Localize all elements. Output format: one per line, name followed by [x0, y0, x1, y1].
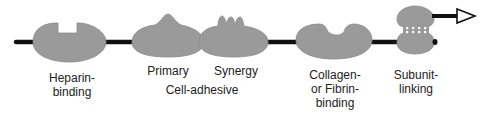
label-line: binding [300, 96, 370, 110]
collagen-fibrin-binding-domain [296, 24, 372, 59]
label-collagen-fibrin-binding: Collagen- or Fibrin- binding [300, 68, 370, 110]
disulfide-bond-dot [424, 27, 426, 29]
disulfide-bond-dot [412, 31, 414, 33]
label-line: Heparin- [39, 71, 105, 85]
label-line: Collagen- [300, 68, 370, 82]
primary-domain [132, 14, 204, 57]
disulfide-bond-dot [406, 27, 408, 29]
label-cell-adhesive: Cell-adhesive [150, 83, 254, 97]
subunit-linking-lower-half [397, 33, 434, 54]
label-line: binding [39, 85, 105, 99]
label-synergy: Synergy [206, 64, 266, 78]
label-line: Cell-adhesive [150, 83, 254, 97]
disulfide-bond-dot [412, 27, 414, 29]
label-subunit-linking: Subunit- linking [386, 68, 446, 96]
label-line: Synergy [206, 64, 266, 78]
heparin-binding-domain [33, 23, 106, 62]
synergy-domain [199, 16, 268, 57]
chain-end-nub [433, 39, 438, 45]
disulfide-bond-dot [424, 31, 426, 33]
label-line: or Fibrin- [300, 82, 370, 96]
label-primary: Primary [138, 64, 198, 78]
disulfide-bonds [403, 26, 429, 34]
disulfide-bond-dot [418, 31, 420, 33]
arrow-right-icon [457, 9, 475, 23]
label-heparin-binding: Heparin- binding [39, 71, 105, 99]
disulfide-bond-dot [418, 27, 420, 29]
label-line: Subunit- [386, 68, 446, 82]
disulfide-bond-dot [406, 31, 408, 33]
label-line: Primary [138, 64, 198, 78]
label-line: linking [386, 82, 446, 96]
subunit-linking-upper-half [397, 6, 434, 27]
